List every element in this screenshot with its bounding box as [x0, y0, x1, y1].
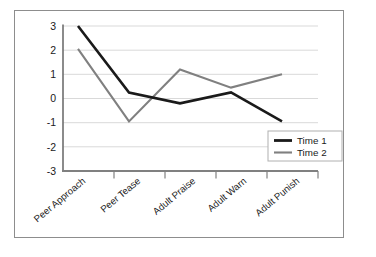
y-tick-label: -3: [47, 165, 56, 177]
y-tick-label: 1: [50, 68, 56, 80]
chart-figure: 3 2 1 0 -1 -2 -3 Peer Approach Peer Teas…: [0, 0, 376, 257]
y-tick-label: -1: [47, 116, 56, 128]
x-tick-labels: Peer Approach Peer Tease Adult Praise Ad…: [32, 175, 302, 224]
series-line-time-1: [78, 26, 282, 121]
y-tick-label: 3: [50, 20, 56, 32]
x-tick-label: Peer Tease: [98, 175, 142, 215]
chart-legend[interactable]: Time 1 Time 2: [268, 131, 342, 161]
x-tick-label: Adult Praise: [151, 175, 198, 217]
y-tick-label: 2: [50, 44, 56, 56]
legend-label-time-2: Time 2: [297, 147, 327, 158]
line-chart-canvas: 3 2 1 0 -1 -2 -3 Peer Approach Peer Teas…: [0, 0, 376, 257]
y-tick-label: -2: [47, 141, 56, 153]
y-tick-label: 0: [50, 92, 56, 104]
series-line-time-2: [78, 49, 282, 122]
y-tick-labels: 3 2 1 0 -1 -2 -3: [47, 20, 57, 177]
x-tick-label: Adult Warn: [205, 175, 248, 214]
x-tick-label: Peer Approach: [32, 175, 88, 224]
gridlines: [63, 26, 318, 147]
x-tick-label: Adult Punish: [253, 175, 301, 218]
legend-label-time-1: Time 1: [297, 135, 327, 146]
